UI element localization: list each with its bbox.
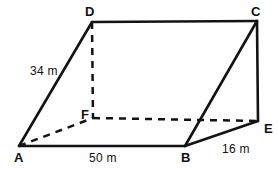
vertex-label-E: E [264, 122, 273, 135]
vertex-label-B: B [181, 151, 190, 164]
measure-label-ab: 50 m [89, 152, 117, 164]
edge-A-F [19, 118, 93, 146]
edge-F-E [93, 118, 258, 121]
measure-label-ad: 34 m [30, 65, 58, 77]
vertex-label-A: A [14, 151, 23, 164]
solid-edge-group [19, 21, 258, 146]
vertex-label-D: D [85, 5, 94, 18]
edge-D-C [92, 21, 257, 22]
edge-B-C [185, 21, 257, 146]
edge-C-E [257, 21, 258, 121]
edge-A-D [19, 22, 92, 146]
measure-label-be: 16 m [222, 143, 250, 155]
vertex-label-F: F [81, 108, 89, 121]
edge-D-F [92, 22, 93, 118]
geometry-figure: A B C D E F 34 m 50 m 16 m [0, 0, 278, 172]
vertex-label-C: C [251, 5, 260, 18]
